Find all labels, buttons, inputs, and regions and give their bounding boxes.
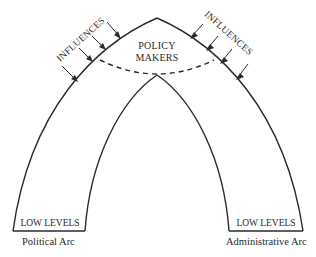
administrative-arc-base-label: LOW LEVELS [236,218,295,228]
arrow-head-icon [236,73,244,80]
policy-makers-label-line2: MAKERS [136,52,179,63]
policy-makers-label-line1: POLICY [138,40,175,51]
influences-label-right: INFLUENCES [203,9,255,57]
arrow-head-icon [114,31,121,39]
influence-arrows-right [190,24,248,80]
administrative-arc-inner-edge [157,75,229,231]
policy-arc-diagram: INFLUENCES INFLUENCES POLICY MAKERS LOW … [0,0,316,257]
administrative-arc-outer-edge [157,18,303,231]
political-arc-caption: Political Arc [22,236,75,247]
administrative-arc-caption: Administrative Arc [226,236,307,247]
political-arc-outer-edge [13,18,157,231]
political-arc-base-label: LOW LEVELS [20,218,79,228]
political-arc-inner-edge [85,75,157,231]
